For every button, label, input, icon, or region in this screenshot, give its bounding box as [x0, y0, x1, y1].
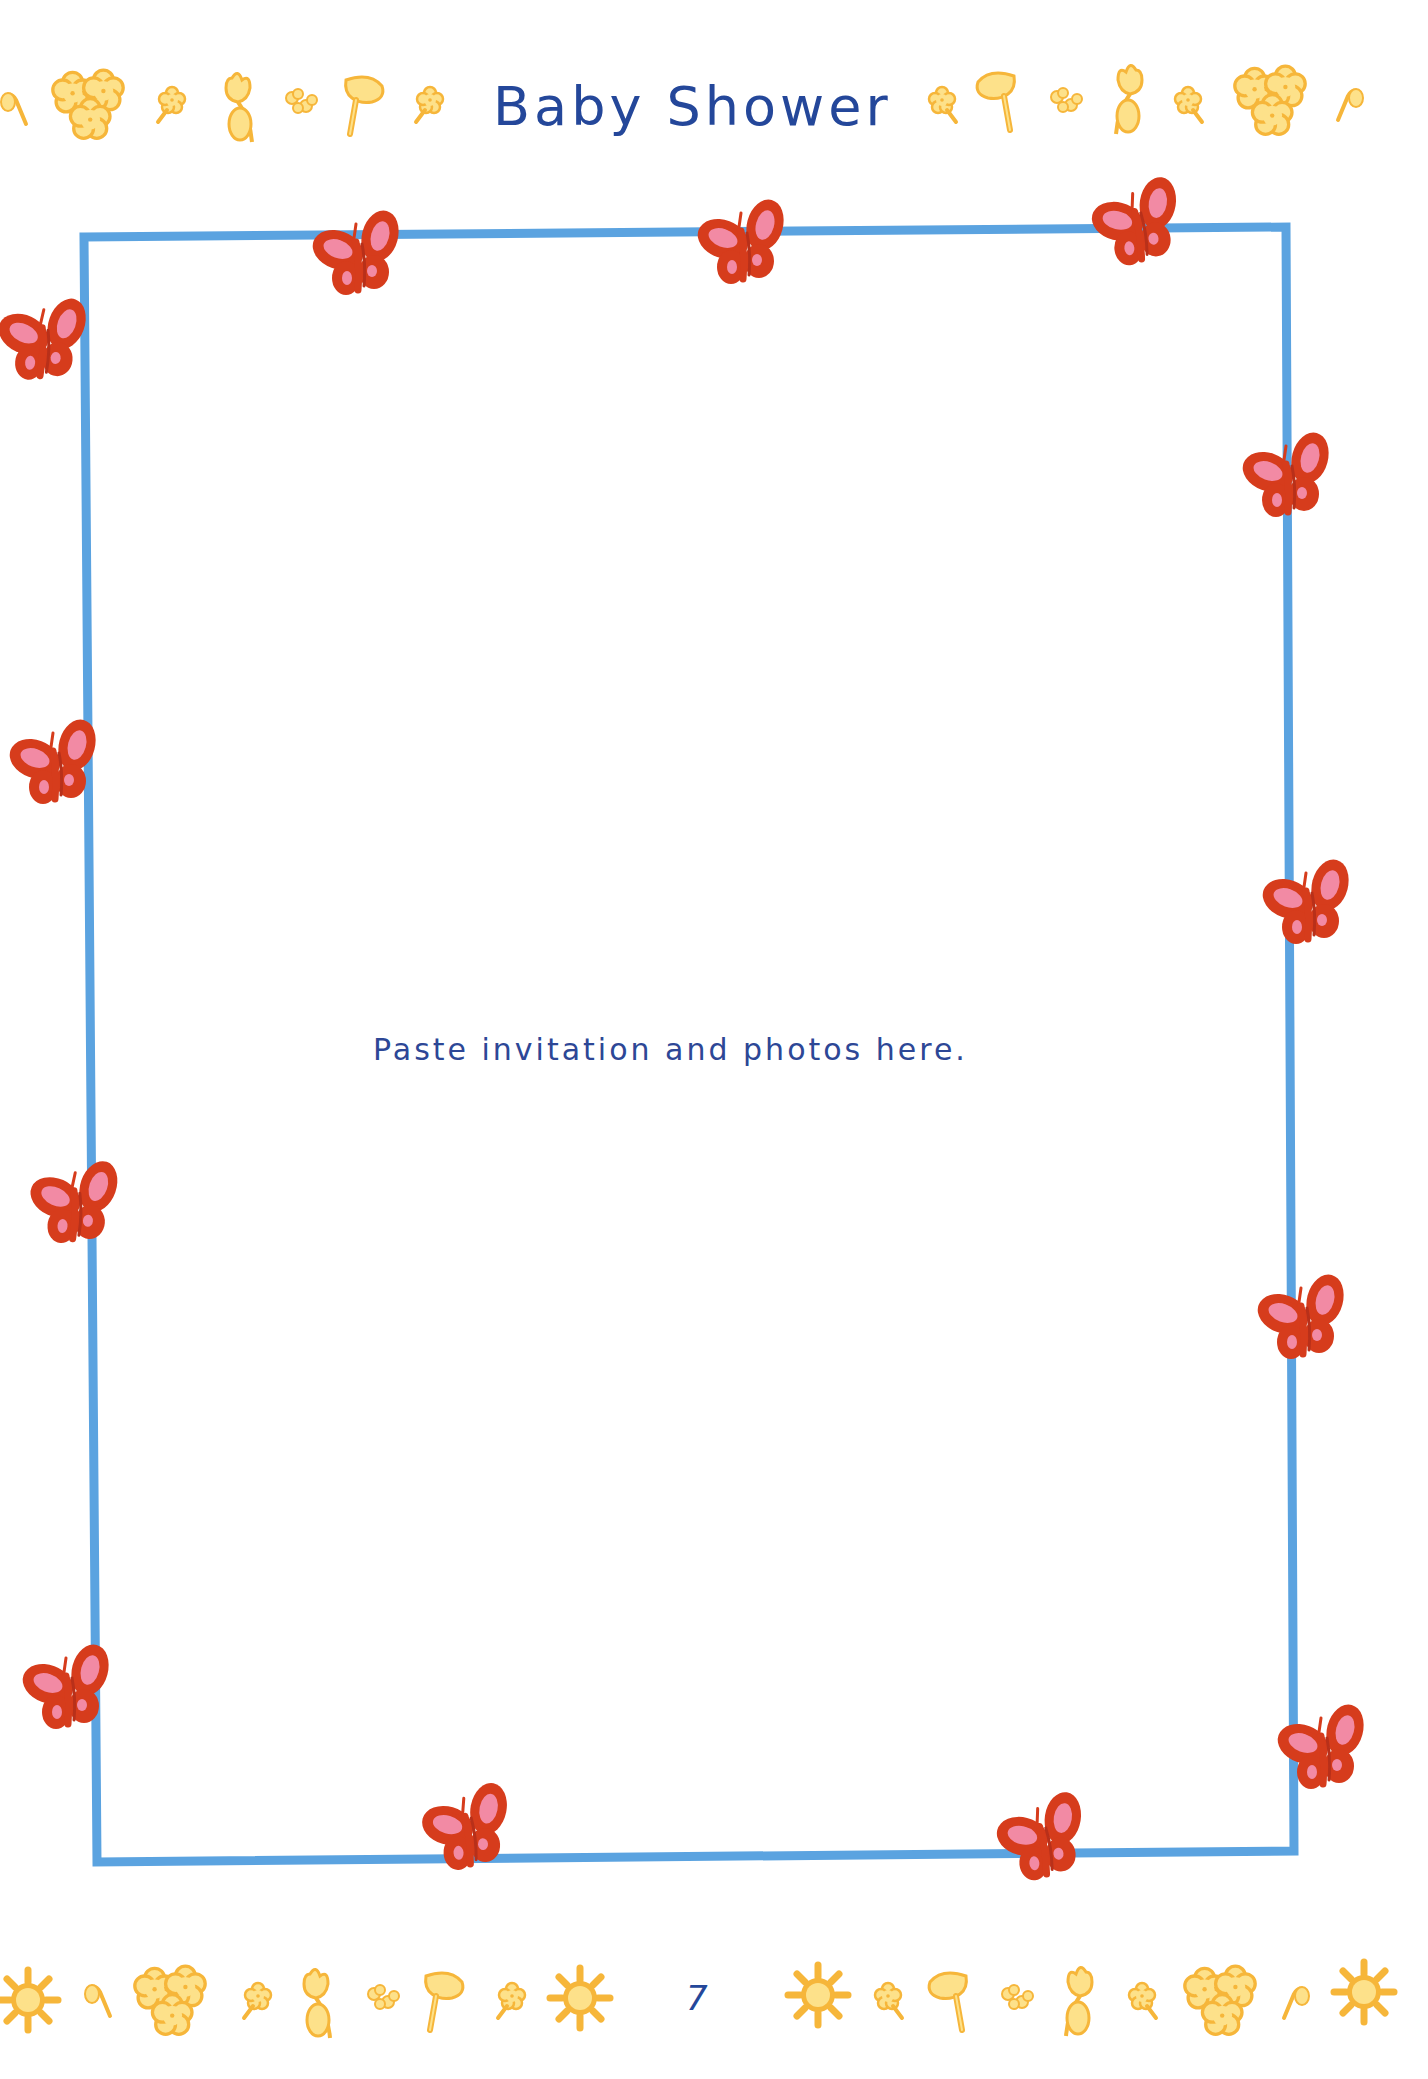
page-title: Baby Shower — [493, 72, 875, 142]
footer-decoration-left — [0, 1966, 610, 2038]
page-number: 7 — [686, 1978, 708, 2018]
footer-decoration-right — [788, 1962, 1394, 2036]
scrapbook-page: Baby Shower Paste invitation and photos … — [0, 0, 1428, 2079]
paste-instruction-text: Paste invitation and photos here. — [373, 1032, 853, 1067]
header-decoration-left — [1, 70, 443, 142]
butterfly-decorations — [0, 171, 1369, 1884]
header-decoration-right — [929, 65, 1363, 134]
